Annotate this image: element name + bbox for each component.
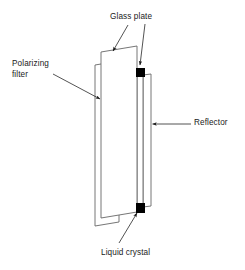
- label-reflector: Reflector: [194, 118, 228, 129]
- top-spacer-square: [136, 68, 145, 77]
- liquid-crystal-cell-layer: [137, 69, 143, 212]
- diagram-canvas: [0, 0, 245, 270]
- reflector-layer: [143, 74, 151, 207]
- label-polarizing-filter-line2: filter: [12, 70, 28, 79]
- front-glass-plate-layer: [101, 46, 137, 218]
- glass-plate-leader-left: [113, 25, 128, 51]
- polarizing-filter-leader: [53, 74, 100, 99]
- liquid-crystal-leader: [119, 213, 137, 243]
- label-polarizing-filter-line1: Polarizing: [12, 59, 49, 68]
- lcd-cross-section-diagram: Glass plate Polarizingfilter Reflector L…: [0, 0, 245, 270]
- label-liquid-crystal: Liquid crystal: [101, 248, 150, 259]
- glass-plate-leader-right: [140, 24, 145, 65]
- bottom-spacer-square: [136, 203, 145, 213]
- label-polarizing-filter: Polarizingfilter: [12, 59, 49, 80]
- label-glass-plate: Glass plate: [110, 12, 152, 23]
